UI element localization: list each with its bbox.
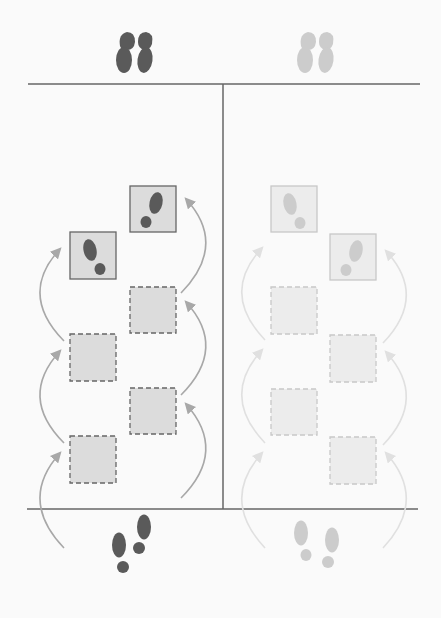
sole-icon: [112, 533, 126, 558]
arrow-icon: [242, 248, 265, 340]
step-placeholder: [130, 388, 176, 434]
step-placeholder: [330, 437, 376, 484]
arrow-icon: [181, 199, 206, 293]
step-footprint-left: [70, 232, 116, 279]
footprint-icon: [95, 263, 106, 275]
toe-icon: [322, 556, 334, 568]
arrow-icon: [181, 404, 206, 498]
footprint-icon: [141, 216, 152, 228]
sole-icon: [116, 47, 132, 73]
footprint-icon: [295, 217, 306, 229]
step-placeholder: [70, 334, 116, 381]
footprint-icon: [341, 264, 352, 276]
right-panel-steps: [271, 186, 376, 484]
step-placeholder: [271, 389, 317, 435]
arrow-icon: [383, 352, 406, 445]
sole-icon: [137, 515, 151, 540]
left-panel-arrows: [40, 199, 206, 548]
step-placeholder: [330, 335, 376, 382]
step-footprint-right: [130, 186, 176, 232]
top-feet-dark: [116, 32, 154, 74]
toe-icon: [133, 542, 145, 554]
left-panel-steps: [70, 186, 176, 483]
sole-icon: [325, 528, 339, 553]
sole-icon: [297, 47, 313, 73]
step-footprint-right: [330, 234, 376, 280]
step-placeholder: [130, 287, 176, 333]
arrow-icon: [40, 351, 64, 443]
arrow-icon: [242, 350, 265, 443]
arrow-icon: [242, 453, 265, 548]
step-placeholder: [271, 287, 317, 334]
arrow-icon: [40, 249, 64, 341]
toe-icon: [301, 32, 316, 50]
diagram-canvas: [0, 0, 441, 618]
arrow-icon: [383, 251, 406, 343]
toe-icon: [120, 32, 135, 50]
top-feet-light: [297, 32, 335, 74]
sole-icon: [294, 521, 308, 546]
toe-icon: [117, 561, 129, 573]
toe-icon: [301, 549, 312, 561]
step-footprint-left: [271, 186, 317, 232]
sole-icon: [317, 46, 335, 74]
arrow-icon: [383, 453, 406, 548]
bottom-feet-light: [294, 521, 339, 569]
bottom-feet-dark: [112, 515, 151, 574]
right-panel-arrows: [242, 248, 407, 548]
arrow-icon: [181, 302, 206, 395]
sole-icon: [136, 46, 154, 74]
step-placeholder: [70, 436, 116, 483]
footstep-diagram: [0, 0, 441, 618]
arrow-icon: [40, 453, 64, 548]
